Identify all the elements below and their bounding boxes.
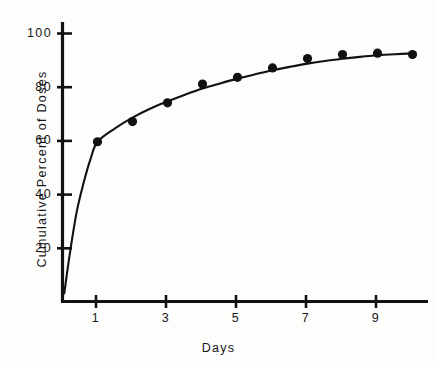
data-point: [233, 73, 242, 82]
data-point: [303, 54, 312, 63]
x-tick-label-7: 7: [286, 311, 326, 325]
data-point-group: [93, 49, 417, 147]
x-tick-label-5: 5: [216, 311, 256, 325]
data-point: [338, 50, 347, 59]
data-point: [163, 98, 172, 107]
x-tick-label-3: 3: [146, 311, 186, 325]
chart-container: 100 80 60 40 20 1 3 5 7 9 Cumulative Per…: [0, 0, 437, 366]
fit-curve: [64, 53, 412, 293]
data-point: [198, 79, 207, 88]
x-tick-label-1: 1: [76, 311, 116, 325]
x-tick-label-9: 9: [356, 311, 396, 325]
data-point: [93, 137, 102, 146]
y-axis-title: Cumulative Percent of Doses: [35, 49, 49, 289]
data-point: [373, 49, 382, 58]
y-tick-label-100: 100: [8, 26, 52, 40]
axis-lines: [61, 22, 428, 302]
data-point: [128, 117, 137, 126]
x-axis-title: Days: [0, 341, 437, 355]
data-point: [408, 50, 417, 59]
y-axis-ticks: [57, 34, 72, 249]
data-point: [268, 63, 277, 72]
